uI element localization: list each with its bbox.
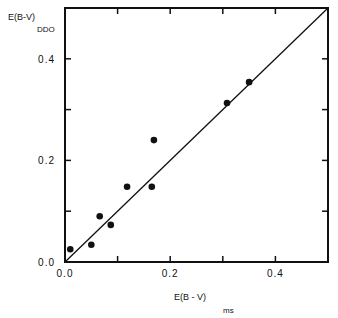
data-point [246, 79, 253, 86]
data-point [224, 100, 231, 107]
data-point [107, 222, 114, 229]
x-tick-label: 0.0 [57, 268, 74, 279]
data-point [96, 213, 103, 220]
x-axis-label: E(B - V) [174, 292, 206, 302]
y-tick-label: 0.2 [38, 155, 55, 166]
x-axis-label-subscript: ms [223, 306, 234, 315]
data-point [124, 184, 131, 191]
data-point [148, 184, 155, 191]
data-point [151, 137, 158, 144]
one-to-one-line [65, 8, 328, 262]
y-tick-label: 0.4 [38, 54, 55, 65]
y-tick-label: 0.0 [38, 257, 55, 268]
scatter-chart: 0.00.20.40.00.20.4 E(B-V) DDO E(B - V) m… [0, 0, 338, 318]
x-tick-label: 0.2 [162, 268, 179, 279]
y-axis-label-subscript: DDO [37, 25, 55, 34]
x-tick-label: 0.4 [267, 268, 284, 279]
data-point [88, 241, 95, 248]
data-points [67, 79, 252, 253]
data-point [67, 246, 74, 253]
y-axis-label: E(B-V) [8, 12, 35, 22]
tick-labels: 0.00.20.40.00.20.4 [38, 54, 284, 279]
